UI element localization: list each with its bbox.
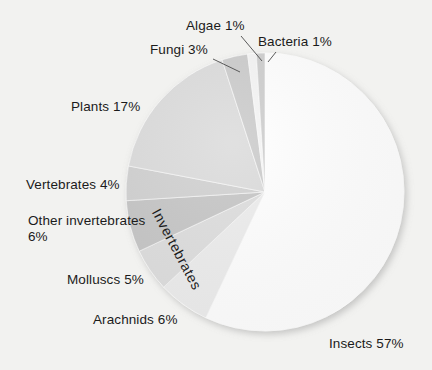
slice-label-arachnids: Arachnids 6% <box>93 312 178 328</box>
pie-chart: Algae 1% Bacteria 1% Fungi 3% Plants 17%… <box>0 0 432 370</box>
slice-label-bacteria: Bacteria 1% <box>258 34 332 50</box>
pie-shading-overlay <box>126 53 404 331</box>
slice-label-fungi: Fungi 3% <box>150 42 208 58</box>
slice-label-vertebrates: Vertebrates 4% <box>26 177 120 193</box>
pie-slices <box>126 53 404 331</box>
slice-label-plants: Plants 17% <box>71 99 140 115</box>
slice-label-molluscs: Molluscs 5% <box>67 272 144 288</box>
slice-label-other-invertebrates: Other invertebrates 6% <box>28 213 148 244</box>
slice-label-insects: Insects 57% <box>329 336 404 352</box>
slice-label-algae: Algae 1% <box>186 18 245 34</box>
